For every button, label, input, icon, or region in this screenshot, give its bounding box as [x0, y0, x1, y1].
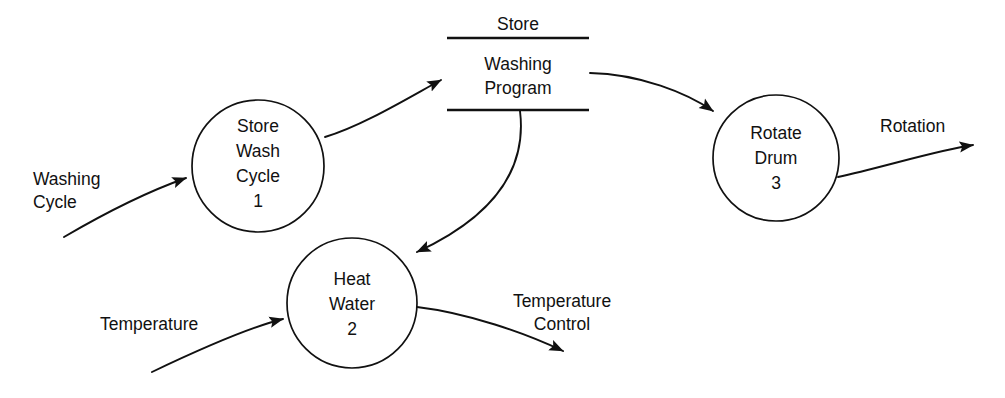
flow-label-temperature-control-line2: Control [534, 314, 590, 334]
process-1-label-line1: Store [237, 116, 279, 136]
process-2-label-line2: Water [329, 294, 375, 314]
datastore-header-label: Store [497, 14, 539, 34]
process-2-label-line1: Heat [334, 269, 371, 289]
data-flow-diagram-canvas: Washing Cycle Store Wash Cycle 1 Store W… [0, 0, 1005, 398]
process-rotate-drum[interactable]: Rotate Drum 3 [713, 95, 839, 221]
flow-label-temperature-control-line1: Temperature [513, 291, 611, 311]
process-3-label-line1: Rotate [750, 123, 802, 143]
process-3-label-line2: Drum [755, 148, 798, 168]
process-1-label-line3: Cycle [236, 166, 280, 186]
flow-store-to-rotate-drum [590, 73, 713, 111]
process-3-number: 3 [771, 173, 781, 193]
flow-store-to-heat-water [417, 111, 521, 252]
datastore-body-line2: Program [484, 78, 551, 98]
process-1-label-line2: Wash [236, 141, 280, 161]
flow-label-washing-cycle-line1: Washing [33, 169, 100, 189]
flow-store-to-heat-water-arrow [417, 111, 521, 252]
process-heat-water[interactable]: Heat Water 2 [287, 238, 417, 368]
flow-process1-to-store [325, 80, 441, 137]
flow-rotation: Rotation [838, 116, 973, 177]
flow-label-washing-cycle-line2: Cycle [33, 192, 77, 212]
flow-store-to-rotate-drum-arrow [590, 73, 713, 111]
datastore-body-line1: Washing [484, 54, 551, 74]
flow-process1-to-store-arrow [325, 80, 441, 137]
flow-rotation-arrow [838, 145, 973, 177]
process-1-number: 1 [253, 191, 263, 211]
process-2-number: 2 [347, 319, 357, 339]
diagram-svg: Washing Cycle Store Wash Cycle 1 Store W… [0, 0, 1005, 398]
flow-temperature-control: Temperature Control [417, 291, 611, 351]
process-store-wash-cycle[interactable]: Store Wash Cycle 1 [192, 100, 324, 232]
flow-label-rotation: Rotation [880, 116, 945, 136]
datastore-washing-program[interactable]: Store Washing Program [447, 14, 589, 110]
flow-washing-cycle: Washing Cycle [33, 169, 186, 237]
flow-temperature-in: Temperature [100, 314, 283, 372]
flow-label-temperature-in: Temperature [100, 314, 198, 334]
